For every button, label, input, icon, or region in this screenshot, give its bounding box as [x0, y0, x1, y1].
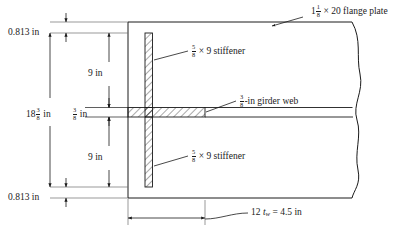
web-thickness-unit: in	[80, 109, 87, 119]
stiffener-bottom-rest: × 9 stiffener	[199, 151, 245, 161]
stiffener-top-rest: × 9 stiffener	[199, 46, 245, 56]
figure-drawing-canvas	[0, 0, 394, 240]
dim-top-edge-distance	[50, 13, 128, 42]
dim-label-top-edge-distance: 0.813 in	[8, 28, 39, 38]
dim-label-lower-clear-depth: 9 in	[88, 153, 103, 163]
girder-web-rest: -in girder web	[244, 96, 298, 106]
flange-plate-rest: × 20 flange plate	[324, 6, 388, 16]
dim-label-bottom-edge-distance: 0.813 in	[8, 193, 39, 203]
dim-label-stiffener-width: 12 tw = 4.5 in	[251, 208, 302, 218]
flange-plate-whole: 1	[311, 6, 316, 16]
overall-depth-unit: in	[43, 109, 50, 119]
dim-bottom-edge-distance	[50, 178, 128, 207]
stiffener-top-fraction: 58	[192, 44, 196, 58]
dim-label-overall-depth: 1838 in	[26, 107, 51, 121]
bottom-dim-value: = 4.5 in	[272, 207, 301, 217]
flange-plate-fraction: 18	[316, 4, 320, 18]
label-stiffener-top: 58 × 9 stiffener	[191, 44, 245, 58]
label-flange-plate: 118 × 20 flange plate	[311, 4, 388, 18]
girder-web-section	[128, 108, 353, 118]
overall-depth-whole: 18	[26, 109, 36, 119]
dim-stiffener-width	[128, 199, 205, 225]
overall-depth-fraction: 38	[36, 107, 40, 121]
break-line	[352, 22, 361, 198]
stiffener-bottom-fraction: 58	[192, 149, 196, 163]
label-stiffener-bottom: 58 × 9 stiffener	[191, 149, 245, 163]
dim-label-web-thickness: 38 in	[72, 107, 87, 121]
label-girder-web: 38-in girder web	[239, 94, 298, 108]
dim-web-thickness	[85, 98, 128, 126]
bearing-stiffener-section	[145, 33, 153, 187]
dim-label-upper-clear-depth: 9 in	[88, 69, 103, 79]
plate-girder-figure: 118 × 20 flange plate 58 × 9 stiffener 3…	[0, 0, 394, 240]
web-thickness-fraction: 38	[73, 107, 77, 121]
bottom-dim-subscript: w	[266, 210, 271, 217]
bottom-dim-prefix: 12	[251, 207, 261, 217]
